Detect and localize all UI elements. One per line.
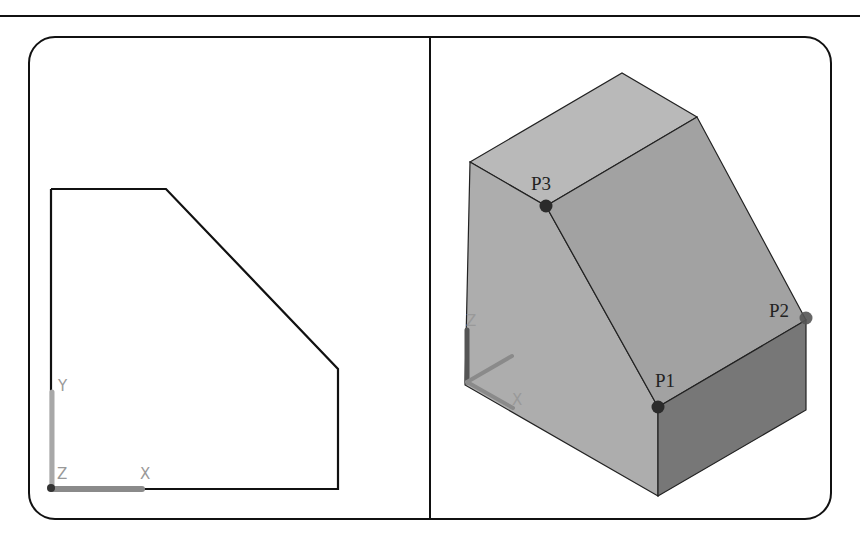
point-label-p2: P2: [769, 300, 789, 321]
ucs-icon-2d: Y Z X: [47, 377, 150, 492]
x-axis-label-3d: X: [512, 391, 522, 409]
z-axis-label: Z: [57, 465, 67, 483]
profile-outline: [51, 189, 338, 489]
z-axis-label-3d: Z: [466, 312, 476, 330]
figure-canvas: Y Z X Z X P3 P2: [0, 0, 860, 553]
y-axis-label: Y: [57, 377, 68, 395]
x-axis-label: X: [140, 465, 150, 483]
right-viewport: Z X P3 P2 P1: [465, 73, 813, 496]
left-viewport: Y Z X: [47, 189, 338, 492]
point-label-p3: P3: [531, 173, 551, 194]
point-label-p1: P1: [655, 370, 675, 391]
